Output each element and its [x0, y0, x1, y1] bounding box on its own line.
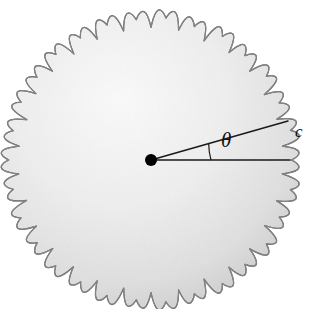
figure-container: θ c	[0, 0, 313, 309]
center-point-dot	[145, 154, 157, 166]
theta-label: θ	[221, 130, 231, 151]
scalloped-circle-diagram	[0, 0, 313, 309]
arc-length-label-c: c	[295, 123, 303, 140]
